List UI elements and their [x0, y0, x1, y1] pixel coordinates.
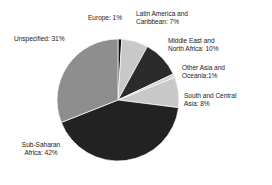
slice-label-south-central-asia: South and Central Asia: 8%: [184, 92, 264, 108]
slice-label-sub-saharan-africa: Sub-Saharan Africa: 42%: [10, 141, 72, 157]
slice-label-unspecified: Unspecified: 31%: [14, 35, 88, 43]
pie-chart-figure: Europe: 1% Latin America and Caribbean: …: [0, 0, 272, 185]
slice-label-middle-east-north-africa: Middle East and North Africa: 10%: [168, 37, 246, 53]
slice-label-latin-america-caribbean: Latin America and Caribbean: 7%: [136, 10, 210, 26]
slice-label-other-asia-oceania: Other Asia and Oceania:1%: [182, 64, 248, 80]
slice-label-europe: Europe: 1%: [78, 14, 132, 22]
